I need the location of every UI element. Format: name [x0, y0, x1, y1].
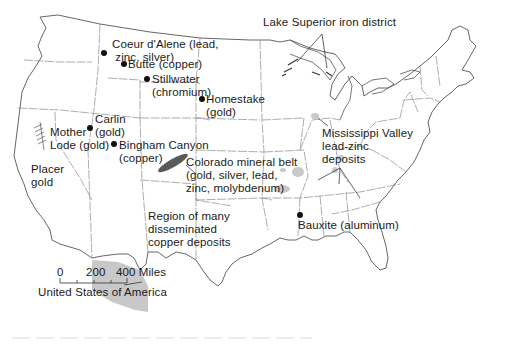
label-colorado-mineral-belt: Colorado mineral belt (gold, silver, lea…	[186, 156, 297, 195]
scale-tick-0: 0	[57, 266, 64, 279]
faded-caption	[12, 337, 312, 339]
scale-tick-200: 200	[86, 266, 106, 279]
scale-tick-400: 400 Miles	[116, 266, 166, 279]
bauxite-dot	[297, 212, 303, 218]
label-placer-gold: Placer gold	[31, 163, 64, 189]
label-mississippi-valley: Mississippi Valley lead-zinc deposits	[322, 127, 413, 166]
label-lake-superior: Lake Superior iron district	[263, 16, 396, 29]
label-copper-region: Region of many disseminated copper depos…	[148, 210, 231, 249]
bingham-dot	[111, 141, 117, 147]
label-mother-lode: Mother Lode (gold)	[50, 126, 109, 152]
label-bauxite: Bauxite (aluminum)	[298, 219, 399, 232]
coeur-dalene-dot	[101, 50, 107, 56]
mother-lode-hatch	[34, 122, 46, 150]
label-butte: Butte (copper)	[128, 58, 202, 71]
mississippi-deposit-1	[311, 113, 319, 119]
great-lakes	[290, 40, 420, 120]
stillwater-dot	[144, 76, 150, 82]
label-stillwater: Stillwater (chromium)	[152, 73, 211, 99]
label-homestake: Homestake (gold)	[206, 93, 265, 119]
map-country-label: United States of America	[38, 286, 167, 299]
